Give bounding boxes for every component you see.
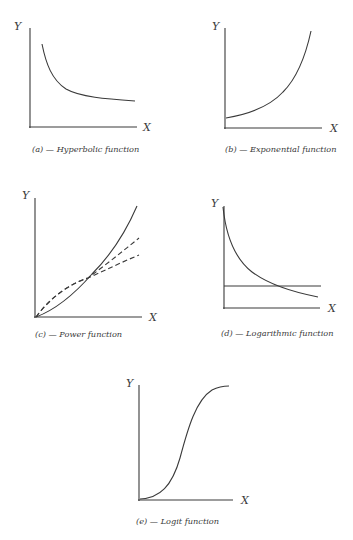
x-axis-label: X <box>240 494 250 507</box>
panel-a-hyperbolic: Y X (a) — Hyperbolic function <box>14 20 152 154</box>
x-axis-label: X <box>148 311 158 324</box>
caption-c: (c) — Power function <box>35 329 122 339</box>
logit-curve <box>140 386 229 499</box>
function-shapes-figure: Y X (a) — Hyperbolic function Y X (b) — … <box>0 0 353 540</box>
panel-c-power: Y X (c) — Power function <box>22 189 158 339</box>
panel-e-logit: Y X (e) — Logit function <box>126 377 250 526</box>
power-curve-concave-lower <box>36 255 139 317</box>
logarithmic-curve <box>223 207 318 297</box>
caption-d: (d) — Logarithmic function <box>221 328 333 338</box>
caption-b: (b) — Exponential function <box>225 144 336 154</box>
caption-a: (a) — Hyperbolic function <box>32 144 139 154</box>
y-axis-label: Y <box>212 20 221 33</box>
y-axis-label: Y <box>211 197 220 210</box>
power-curve-convex <box>36 206 137 317</box>
y-axis-label: Y <box>14 20 23 33</box>
power-curve-concave-upper <box>36 238 139 317</box>
y-axis-label: Y <box>22 189 31 202</box>
hyperbolic-curve <box>42 44 135 101</box>
x-axis-label: X <box>327 302 337 315</box>
panel-d-logarithmic: Y X (d) — Logarithmic function <box>211 197 337 338</box>
x-axis-label: X <box>142 121 152 134</box>
panel-b-exponential: Y X (b) — Exponential function <box>212 20 339 154</box>
y-axis-label: Y <box>126 377 135 390</box>
x-axis-label: X <box>329 122 339 135</box>
exponential-curve <box>226 31 311 118</box>
caption-e: (e) — Logit function <box>136 516 219 526</box>
